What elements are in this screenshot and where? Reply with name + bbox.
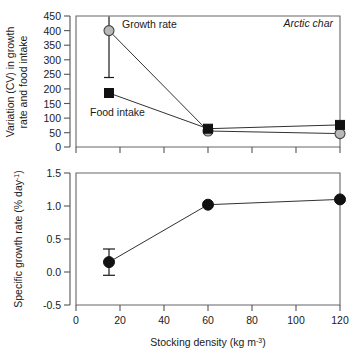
specific-growth-rate-line <box>109 199 340 262</box>
xtick-120: 120 <box>331 314 349 326</box>
xtick-80: 80 <box>246 314 258 326</box>
xtick-0: 0 <box>73 314 79 326</box>
top-y-tick-labels: 450 400 350 300 250 200 150 100 50 0 <box>43 10 61 153</box>
top-ytick-400: 400 <box>43 25 61 37</box>
food-intake-point-60 <box>204 124 213 133</box>
top-y-axis-label: Variation (CV) in growth rate and food i… <box>4 27 29 138</box>
xtick-40: 40 <box>158 314 170 326</box>
food-intake-point-15 <box>105 89 114 98</box>
top-ytick-50: 50 <box>49 127 61 139</box>
growth-rate-point-120 <box>335 129 345 139</box>
bottom-x-tick-labels: 0 20 40 60 80 100 120 <box>73 314 349 326</box>
top-ytick-250: 250 <box>43 68 61 80</box>
top-ylabel-line2: rate and food intake <box>17 35 29 128</box>
top-ytick-200: 200 <box>43 83 61 95</box>
food-intake-point-120 <box>336 120 345 129</box>
bottom-x-ticks <box>76 305 340 311</box>
bottom-ytick-neg0-5: -0.5 <box>43 299 61 311</box>
chart-svg: 450 400 350 300 250 200 150 100 50 0 <box>0 0 358 354</box>
xtick-20: 20 <box>114 314 126 326</box>
bottom-y-ticks <box>64 173 70 305</box>
figure-container: 450 400 350 300 250 200 150 100 50 0 <box>0 0 358 354</box>
x-axis-label: Stocking density (kg m-3) <box>150 336 265 348</box>
species-annotation: Arctic char <box>282 17 333 29</box>
bottom-ylabel-main: Specific growth rate (% day <box>12 179 24 308</box>
bottom-y-tick-labels: 1.5 1.0 0.5 0.0 -0.5 <box>43 167 61 311</box>
growth-rate-line <box>109 31 340 134</box>
series-food-intake: Food intake <box>90 89 345 134</box>
bottom-panel-frame <box>76 173 340 305</box>
food-intake-annotation: Food intake <box>90 106 145 118</box>
bottom-ytick-0-5: 0.5 <box>46 233 61 245</box>
growth-rate-annotation: Growth rate <box>122 18 177 30</box>
bottom-ytick-1-5: 1.5 <box>46 167 61 179</box>
top-panel: 450 400 350 300 250 200 150 100 50 0 <box>4 10 345 153</box>
xlabel-main: Stocking density (kg m <box>150 336 256 348</box>
bottom-panel: 1.5 1.0 0.5 0.0 -0.5 0 20 40 <box>12 167 349 348</box>
growth-rate-point-15 <box>104 26 114 36</box>
top-ytick-350: 350 <box>43 39 61 51</box>
top-ylabel-line1: Variation (CV) in growth <box>4 27 16 138</box>
top-ytick-150: 150 <box>43 98 61 110</box>
specific-growth-rate-point-120 <box>335 194 346 205</box>
series-growth-rate: Growth rate <box>104 17 345 139</box>
series-specific-growth-rate <box>103 194 346 275</box>
bottom-ylabel-close: ) <box>12 170 24 174</box>
xtick-60: 60 <box>202 314 214 326</box>
xtick-100: 100 <box>287 314 305 326</box>
bottom-y-axis-label: Specific growth rate (% day-1) <box>12 170 24 308</box>
top-ytick-0: 0 <box>55 141 61 153</box>
specific-growth-rate-point-60 <box>203 199 214 210</box>
svg-text:Specific growth rate (% day-1): Specific growth rate (% day-1) <box>12 170 24 308</box>
top-ytick-450: 450 <box>43 10 61 22</box>
top-ytick-300: 300 <box>43 54 61 66</box>
xlabel-close: ) <box>262 336 266 348</box>
top-y-ticks <box>64 16 70 147</box>
bottom-ytick-0-0: 0.0 <box>46 266 61 278</box>
bottom-ytick-1-0: 1.0 <box>46 200 61 212</box>
top-x-ticks <box>76 147 340 153</box>
specific-growth-rate-point-15 <box>104 257 115 268</box>
top-ytick-100: 100 <box>43 112 61 124</box>
